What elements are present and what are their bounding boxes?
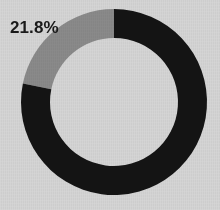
donut-chart-figure: 21.8% — [0, 0, 220, 210]
gray-slice-value-label: 21.8% — [10, 18, 59, 38]
